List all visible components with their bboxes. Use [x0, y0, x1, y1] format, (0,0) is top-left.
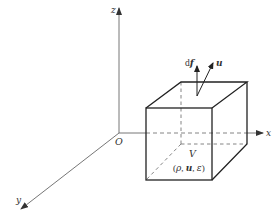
origin-label: O — [115, 136, 123, 147]
force-f: f — [189, 57, 196, 68]
z-axis-label: z — [110, 5, 116, 15]
volume-state-label: (ρ, u, ε) — [173, 163, 205, 173]
control-volume-diagram: z x y O df u V (ρ, u, ε) — [0, 0, 276, 217]
volume-label: V — [189, 148, 197, 159]
y-axis-label: y — [15, 195, 22, 205]
cube-right-face — [212, 82, 247, 180]
x-axis-label: x — [266, 128, 271, 138]
surface-vectors — [197, 63, 213, 96]
velocity-arrow — [197, 63, 213, 96]
surface-force-label: df — [185, 57, 196, 68]
velocity-label: u — [216, 58, 223, 68]
hidden-edge-bottom-diagonal — [146, 144, 181, 180]
coordinate-axes — [21, 8, 263, 209]
y-axis — [21, 133, 119, 209]
